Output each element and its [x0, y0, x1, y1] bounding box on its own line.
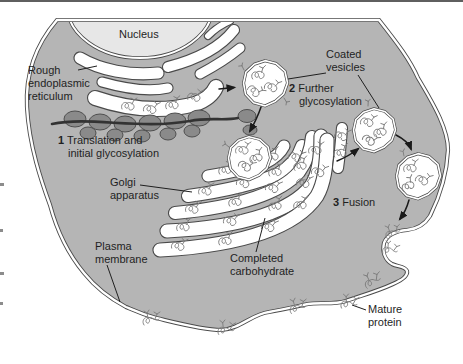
pointer-mature-protein	[352, 305, 366, 310]
label-step3-fusion: 3 Fusion	[333, 196, 375, 209]
label-nucleus: Nucleus	[119, 28, 159, 41]
cell-glycosylation-diagram: Nucleus Rough endoplasmic reticulum 1 Tr…	[0, 0, 463, 364]
label-golgi: Golgi apparatus	[110, 176, 159, 202]
label-plasma-membrane: Plasma membrane	[95, 240, 148, 266]
label-coated-vesicles: Coated vesicles	[326, 48, 365, 74]
label-rough-er: Rough endoplasmic reticulum	[28, 64, 90, 103]
label-mature-protein: Mature protein	[368, 303, 402, 329]
label-completed-carbohydrate: Completed carbohydrate	[230, 252, 294, 278]
label-step2-further-glycosylation: 2 Further glycosylation	[289, 82, 362, 108]
label-step1-translation: 1 Translation and initial glycosylation	[58, 134, 159, 160]
edge-artifacts	[0, 183, 4, 305]
